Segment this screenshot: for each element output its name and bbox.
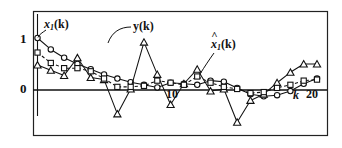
y-tick-label-zero: 0 xyxy=(20,81,27,97)
x-tick-label-ten: 10 xyxy=(166,87,178,102)
series-label-x1-tail: (k) xyxy=(54,17,69,31)
x-axis-name-label: k xyxy=(293,88,299,103)
series-label-x1hat: ^x1(k) xyxy=(211,37,236,52)
figure-container: 1 0 10 k 20 x1(k) y(k) ^x1(k) xyxy=(0,0,342,148)
series-label-x1hat-tail: (k) xyxy=(221,37,236,51)
series-label-x1: x1(k) xyxy=(44,17,69,32)
x-tick-label-twenty: 20 xyxy=(306,87,318,102)
hat-accent-icon: ^ xyxy=(211,30,217,41)
series-label-y: y(k) xyxy=(133,19,154,34)
series-label-x1hat-hatwrap: ^x xyxy=(211,37,217,52)
series-layer xyxy=(34,35,321,125)
plot-frame xyxy=(34,12,328,136)
y-tick-label-one: 1 xyxy=(20,31,27,47)
